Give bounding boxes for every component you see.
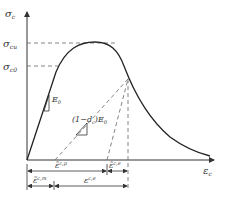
plastic-strain-label: ε̃c,p: [55, 160, 68, 170]
y-axis-label: σc: [5, 8, 16, 20]
unload-elastic-strain-label: ε̃c,e: [109, 160, 121, 170]
unload-slope-triangle: [76, 123, 87, 135]
elastic-strain-label: εc,e: [84, 175, 96, 185]
initial-elastic-strain-label: ε̃c,m: [33, 175, 47, 185]
x-axis-label: εc: [203, 165, 212, 177]
elastic-slope-triangle: [44, 95, 49, 111]
elastic-modulus-label: E0: [51, 95, 62, 105]
peak-stress-label: σcu: [3, 38, 17, 50]
damaged-modulus-label: (1−dc)E0: [72, 115, 108, 125]
initial-stress-label: σc0: [3, 61, 17, 73]
stress-strain-diagram: σc εc σcu σc0 E0 (1−dc)E0 ε̃c,p ε̃c,e ε̃…: [0, 0, 227, 198]
